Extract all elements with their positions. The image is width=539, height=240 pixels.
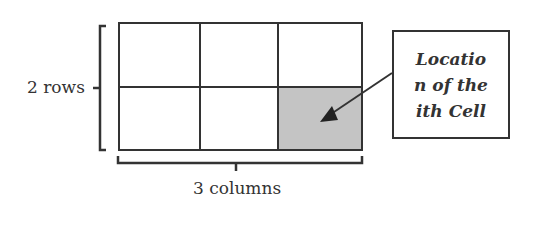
callout-box: Locatio n of the ith Cell (392, 30, 510, 139)
columns-label: 3 columns (193, 178, 281, 198)
callout-line-2: n of the (414, 72, 488, 98)
columns-bracket (118, 156, 362, 163)
callout-line-1: Locatio (416, 46, 486, 72)
callout-line-3: ith Cell (416, 98, 486, 124)
rows-label: 2 rows (27, 77, 85, 97)
rows-bracket (100, 26, 106, 150)
highlighted-cell (278, 87, 362, 150)
